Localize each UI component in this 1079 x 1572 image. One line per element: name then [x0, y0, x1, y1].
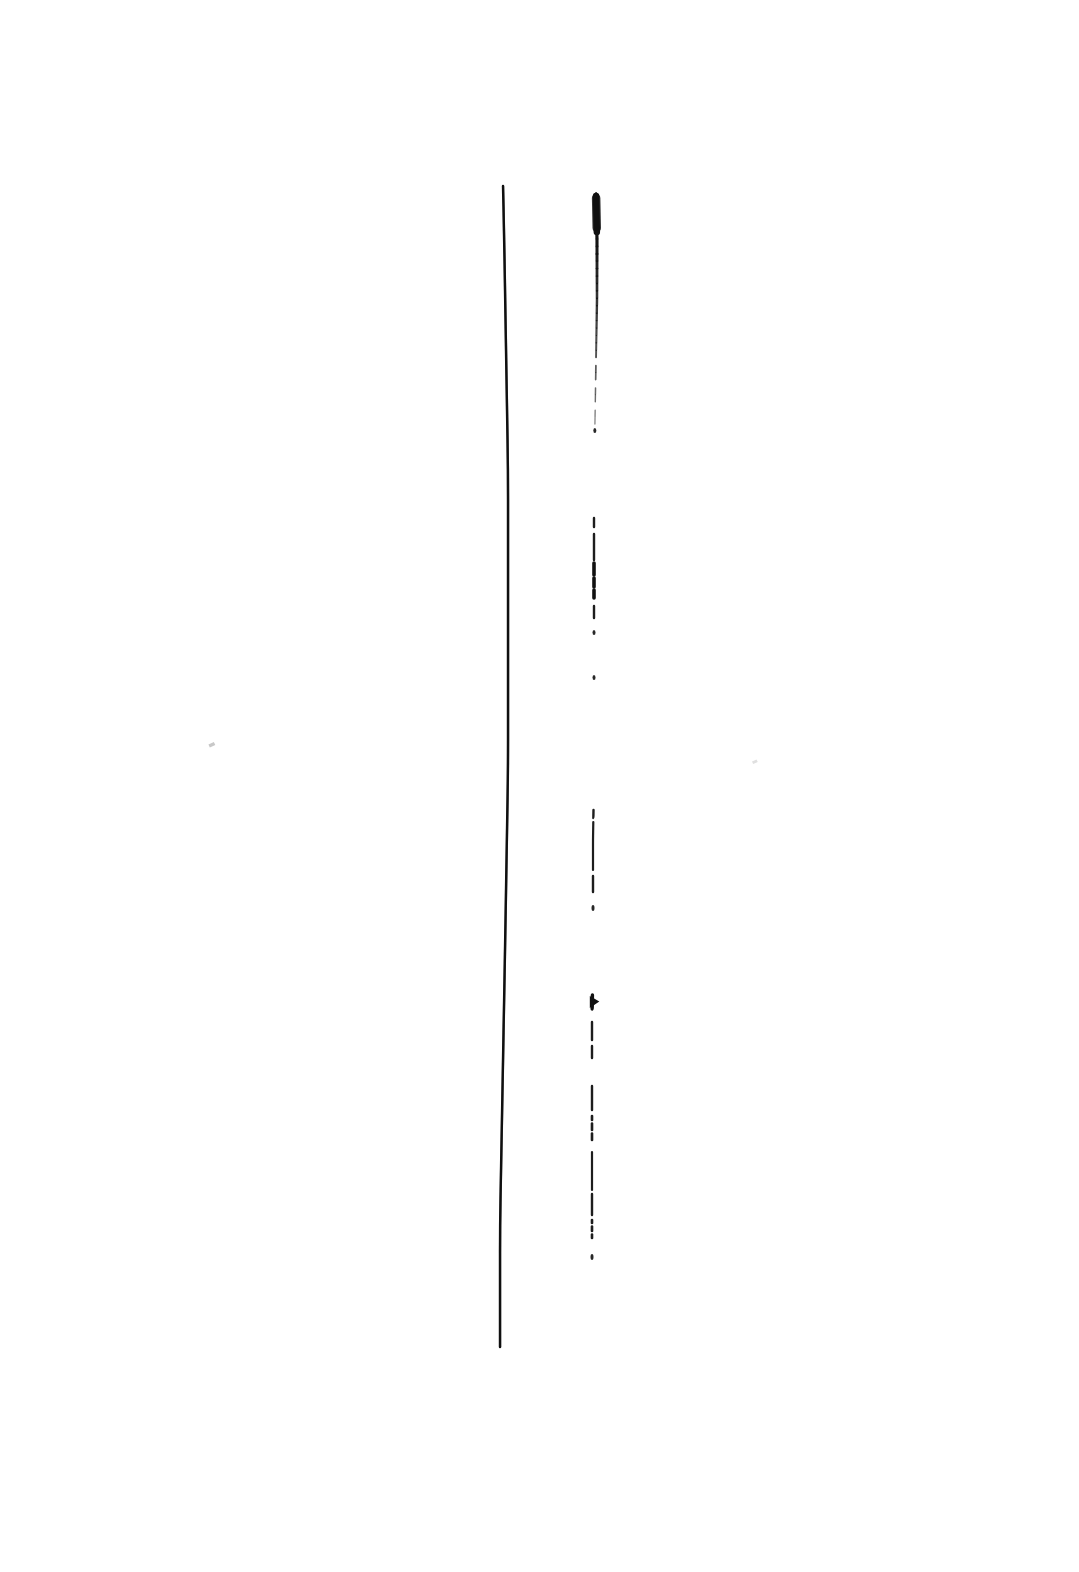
scanned-page: [0, 0, 1079, 1572]
paper-background: [0, 0, 1079, 1572]
ink-drawing-canvas: [0, 0, 1079, 1572]
